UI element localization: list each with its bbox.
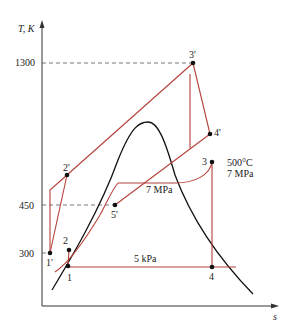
x-axis-label: s: [273, 311, 277, 322]
point-3p: [191, 61, 196, 66]
label-1: 1: [67, 272, 72, 283]
annotation-state3-pressure: 7 MPa: [227, 168, 254, 179]
y-axis-label: T, K: [18, 23, 36, 34]
label-3p: 3': [189, 49, 196, 60]
label-2: 2: [63, 235, 68, 246]
line-2p-3p: [67, 63, 193, 175]
point-4p: [208, 132, 213, 137]
annotation-5kpa-line: 5 kPa: [134, 253, 157, 264]
y-tick-300: 300: [19, 248, 34, 259]
point-2: [67, 248, 72, 253]
label-5p: 5': [111, 209, 118, 220]
gas-cycle: [50, 63, 210, 253]
annotation-7mpa-line: 7 MPa: [146, 184, 173, 195]
line-2-heating: [55, 183, 118, 272]
point-1p: [48, 251, 53, 256]
label-3: 3: [202, 156, 207, 167]
point-5p: [113, 203, 118, 208]
label-2p: 2': [63, 162, 70, 173]
y-tick-1300: 1300: [15, 57, 35, 68]
point-1: [66, 264, 71, 269]
state-points: [48, 61, 215, 270]
label-4: 4: [209, 271, 214, 282]
line-7mpa-to-3: [118, 162, 212, 183]
annotation-state3-temp: 500°C: [227, 157, 253, 168]
saturation-dome: [52, 122, 253, 294]
label-4p: 4': [214, 127, 221, 138]
point-4: [210, 265, 215, 270]
y-axis-arrow-icon: [40, 20, 45, 28]
point-2p: [65, 173, 70, 178]
x-axis-arrow-icon: [271, 304, 279, 309]
ts-diagram: T, K s 1300 450 300: [0, 0, 289, 332]
label-1p: 1': [46, 257, 53, 268]
y-tick-450: 450: [19, 200, 34, 211]
line-3p-4p: [193, 63, 210, 134]
point-3: [210, 160, 215, 165]
